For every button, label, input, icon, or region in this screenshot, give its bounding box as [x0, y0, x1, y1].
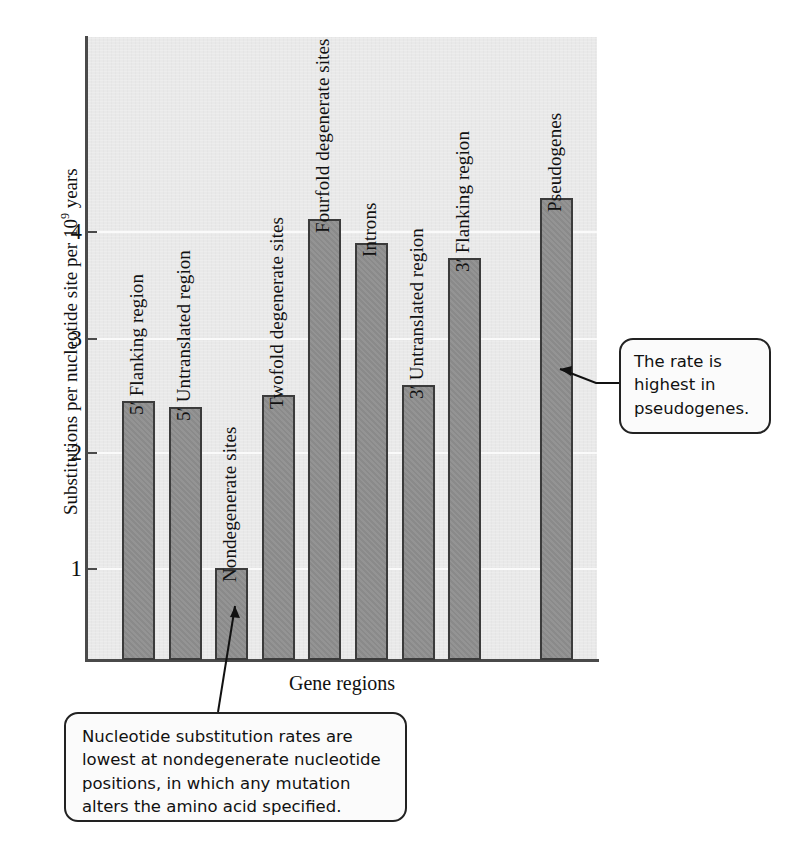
- nondegenerate-callout-line-3: positions, in which any mutation: [82, 772, 389, 795]
- pseudogenes-callout: The rate is highest in pseudogenes.: [619, 338, 771, 434]
- bar-label-1: 5ʹ Untranslated region: [173, 250, 195, 421]
- gridline-2: [87, 452, 597, 454]
- bar-chart-figure: 4 3 2 1 Substitutions per nucleotide sit…: [0, 0, 787, 862]
- nondegenerate-callout-line-1: Nucleotide substitution rates are: [82, 725, 389, 748]
- bar-label-2: Nondegenerate sites: [219, 426, 241, 581]
- nondegenerate-callout-pointer: [210, 598, 270, 718]
- bar-6: [402, 385, 435, 660]
- bar-label-8: Pseudogenes: [544, 112, 566, 211]
- y-tick-mark-2: [86, 452, 97, 454]
- nondegenerate-callout-line-4: alters the amino acid specified.: [82, 795, 389, 818]
- bar-7: [448, 258, 481, 660]
- pseudogenes-callout-line-1: The rate is: [634, 350, 756, 373]
- gridline-3: [87, 338, 597, 340]
- plot-background: [87, 37, 597, 660]
- y-axis-title-suffix: years: [60, 168, 81, 213]
- y-axis-title: Substitutions per nucleotide site per 10…: [58, 22, 81, 662]
- bar-1: [169, 407, 202, 660]
- bar-label-6: 3ʹ Untranslated region: [406, 228, 428, 399]
- y-tick-mark-4: [86, 231, 97, 233]
- y-tick-mark-1: [86, 568, 97, 570]
- bar-8: [540, 198, 573, 660]
- bar-label-3: Twofold degenerate sites: [266, 217, 288, 409]
- nondegenerate-callout-line-2: lowest at nondegenerate nucleotide: [82, 748, 389, 771]
- bar-4: [308, 219, 341, 660]
- bar-0: [122, 401, 155, 660]
- pseudogenes-callout-line-2: highest in: [634, 373, 756, 396]
- nondegenerate-callout: Nucleotide substitution rates are lowest…: [64, 712, 407, 822]
- bar-label-7: 3ʹ Flanking region: [452, 131, 474, 272]
- y-axis-title-prefix: Substitutions per nucleotide site per 10: [60, 219, 81, 515]
- bar-label-4: Fourfold degenerate sites: [312, 39, 334, 234]
- x-axis-line: [85, 659, 599, 662]
- y-tick-mark-3: [86, 338, 97, 340]
- x-axis-title: Gene regions: [87, 672, 597, 695]
- gridline-1: [87, 568, 597, 570]
- bar-5: [355, 243, 388, 660]
- bar-label-0: 5ʹ Flanking region: [126, 273, 148, 414]
- y-axis-title-exponent: 9: [58, 213, 72, 219]
- bar-label-5: Introns: [359, 202, 381, 257]
- gridline-4: [87, 231, 597, 233]
- pseudogenes-callout-line-3: pseudogenes.: [634, 397, 756, 420]
